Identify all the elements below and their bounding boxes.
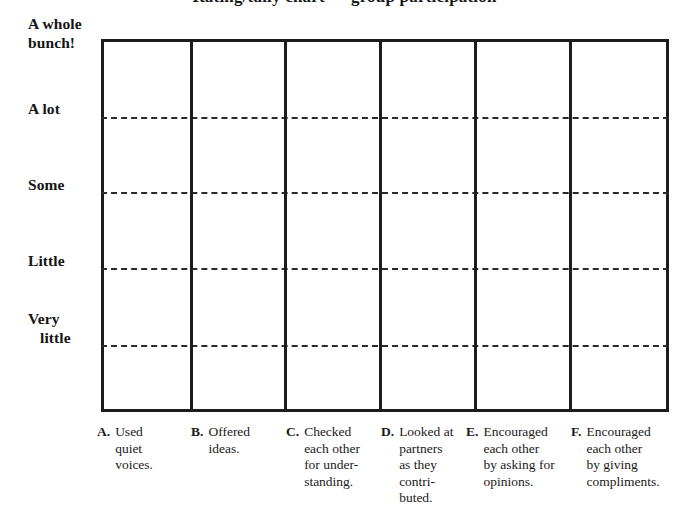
x-axis-letter-a: A.	[97, 424, 110, 441]
y-axis-label-line1: A whole	[28, 14, 82, 33]
y-axis-label-little: Little	[28, 251, 65, 270]
x-axis-label-a: A. Used quiet voices.	[97, 424, 189, 474]
gridline-very-little	[101, 345, 669, 347]
x-axis-text-f: Encouraged each other by giving complime…	[586, 424, 686, 490]
x-axis-label-d: D. Looked at partners as they contri- bu…	[381, 424, 474, 507]
y-axis-label-line2: little	[28, 328, 71, 347]
x-axis-label-c: C. Checked each other for under- standin…	[286, 424, 379, 490]
x-axis-letter-d: D.	[381, 424, 394, 441]
x-axis-letter-b: B.	[191, 424, 203, 441]
x-axis-text-b: Offered ideas.	[208, 424, 283, 457]
x-axis-label-e: E. Encouraged each other by asking for o…	[466, 424, 570, 490]
column-divider-c-d	[379, 42, 382, 409]
y-axis-label-line1: Some	[28, 175, 65, 194]
y-axis-label-some: Some	[28, 175, 65, 194]
gridline-some	[101, 192, 669, 194]
y-axis-label-line2: bunch!	[28, 33, 82, 52]
gridline-little	[101, 268, 669, 270]
x-axis-letter-e: E.	[466, 424, 478, 441]
y-axis-label-a-whole-bunch: A whole bunch!	[28, 14, 82, 52]
gridline-a-lot	[101, 117, 669, 119]
y-axis-label-very-little: Very little	[28, 309, 71, 347]
column-divider-a-b	[190, 42, 193, 409]
y-axis-labels: A whole bunch! A lot Some Little Very li…	[0, 0, 101, 420]
x-axis-label-f: F. Encouraged each other by giving compl…	[571, 424, 686, 490]
column-divider-b-c	[284, 42, 287, 409]
x-axis-text-a: Used quiet voices.	[115, 424, 189, 474]
x-axis-text-e: Encouraged each other by asking for opin…	[483, 424, 570, 490]
y-axis-label-a-lot: A lot	[28, 99, 60, 118]
x-axis-labels: A. Used quiet voices. B. Offered ideas. …	[0, 424, 689, 520]
column-divider-d-e	[474, 42, 477, 409]
y-axis-label-line1: A lot	[28, 99, 60, 118]
page-title: Rating/tally chart — group participation	[0, 0, 689, 7]
chart-plot-area[interactable]	[101, 39, 669, 412]
y-axis-label-line1: Very	[28, 309, 71, 328]
x-axis-letter-c: C.	[286, 424, 299, 441]
x-axis-label-b: B. Offered ideas.	[191, 424, 283, 457]
x-axis-text-d: Looked at partners as they contri- buted…	[399, 424, 474, 507]
chart-plot-inner	[104, 42, 666, 409]
y-axis-label-line1: Little	[28, 251, 65, 270]
x-axis-letter-f: F.	[571, 424, 581, 441]
column-divider-e-f	[569, 42, 572, 409]
x-axis-text-c: Checked each other for under- standing.	[304, 424, 379, 490]
